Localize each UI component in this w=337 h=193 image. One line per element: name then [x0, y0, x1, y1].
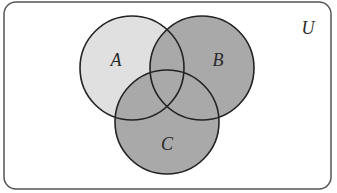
- universe-label: U: [302, 18, 316, 38]
- set-a-label: A: [110, 50, 123, 70]
- set-b-label: B: [213, 50, 224, 70]
- venn-diagram: A B C U: [0, 0, 337, 193]
- set-c-label: C: [161, 134, 174, 154]
